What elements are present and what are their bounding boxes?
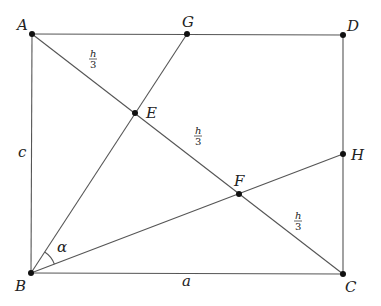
label-side-c: c <box>18 143 27 161</box>
label-C: C <box>345 278 357 296</box>
fraction-h-over-3-AE: h 3 <box>89 48 97 70</box>
point-D <box>340 32 346 38</box>
point-B <box>28 270 34 276</box>
label-E: E <box>145 104 157 122</box>
fraction-numerator: h <box>295 210 301 221</box>
label-F: F <box>233 172 245 190</box>
point-A <box>29 31 35 37</box>
segment-BA <box>31 34 32 273</box>
point-G <box>184 31 190 37</box>
label-D: D <box>346 17 359 35</box>
fraction-denominator: 3 <box>295 221 301 232</box>
label-H: H <box>350 146 365 164</box>
segment-BG <box>31 34 187 273</box>
point-F <box>236 191 242 197</box>
label-angle-alpha: α <box>57 238 67 256</box>
fraction-h-over-3-FC: h 3 <box>294 210 302 232</box>
fraction-numerator: h <box>90 48 96 59</box>
point-C <box>340 271 346 277</box>
label-G: G <box>182 13 194 31</box>
fraction-denominator: 3 <box>90 59 96 70</box>
fraction-denominator: 3 <box>195 136 201 147</box>
rectangle-geometry-diagram: A B C D E F G H c a α h 3 h 3 h 3 <box>0 0 381 306</box>
fraction-numerator: h <box>195 125 201 136</box>
point-H <box>340 151 346 157</box>
label-side-a: a <box>182 272 191 290</box>
label-B: B <box>14 277 26 295</box>
diagonal-AC <box>32 34 343 274</box>
label-A: A <box>15 16 28 34</box>
point-E <box>132 110 138 116</box>
fraction-h-over-3-EF: h 3 <box>194 125 202 147</box>
angle-alpha-arc <box>45 252 55 264</box>
